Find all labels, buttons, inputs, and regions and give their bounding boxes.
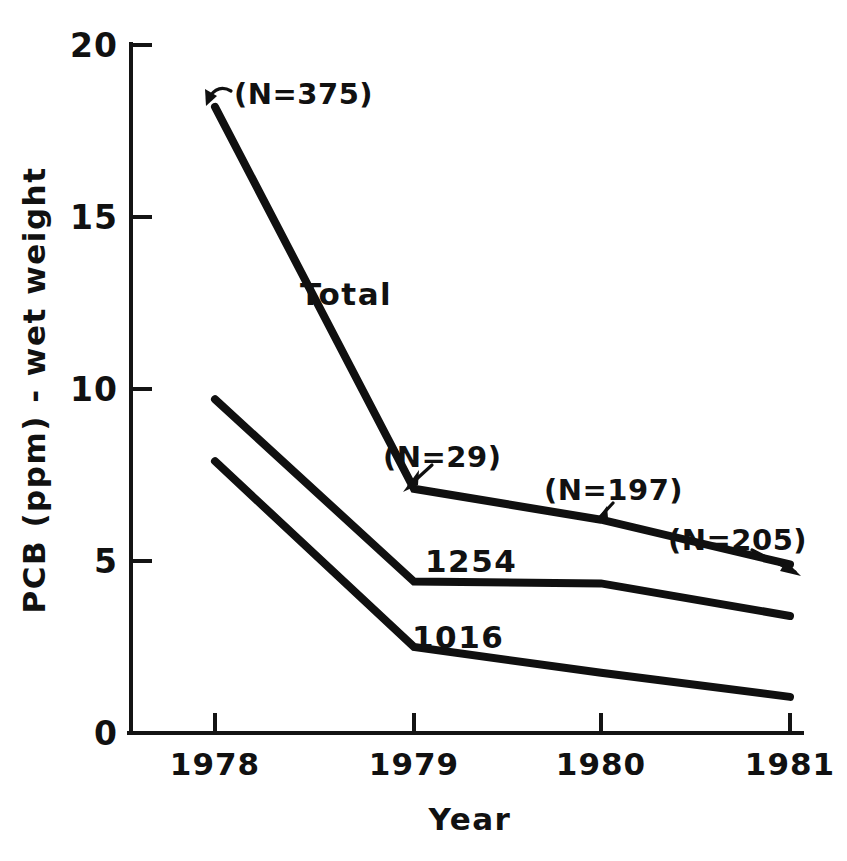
pcb-line-chart: 20 15 10 5 0 1978 1979 1980 1981 Year PC… (0, 0, 847, 861)
y-tick-label-15: 15 (70, 198, 118, 237)
series-label-1254: 1254 (425, 543, 517, 579)
x-tick-label-1981: 1981 (745, 746, 835, 782)
x-tick-label-1978: 1978 (170, 746, 260, 782)
chart-figure: 20 15 10 5 0 1978 1979 1980 1981 Year PC… (0, 0, 847, 861)
x-axis-title: Year (428, 801, 512, 837)
annotation-n29-label: (N=29) (383, 440, 501, 474)
y-tick-label-0: 0 (94, 714, 118, 753)
x-tick-label-1979: 1979 (369, 746, 459, 782)
annotation-n205-label: (N=205) (668, 523, 807, 557)
annotation-n197-label: (N=197) (544, 473, 683, 507)
series-label-total: Total (300, 276, 392, 312)
y-tick-label-10: 10 (70, 370, 118, 409)
x-tick-label-1980: 1980 (556, 746, 646, 782)
y-tick-label-20: 20 (70, 26, 118, 65)
y-tick-label-5: 5 (94, 542, 118, 581)
y-axis-title: PCB (ppm) - wet weight (16, 166, 52, 613)
annotation-n375-label: (N=375) (234, 77, 373, 111)
series-label-1016: 1016 (412, 619, 504, 655)
